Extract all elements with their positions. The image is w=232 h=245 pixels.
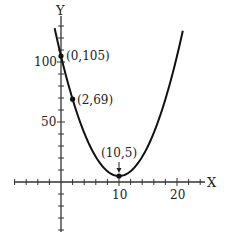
y-tick-label-50: 50 (41, 115, 56, 129)
point-label-0-105: (0,105) (66, 49, 110, 63)
x-tick-label-20: 20 (170, 188, 185, 202)
vertex-arrow-icon (117, 162, 122, 173)
point-0-105 (58, 53, 63, 58)
point-2-69 (70, 97, 75, 102)
point-10-5 (116, 173, 121, 178)
x-tick-label-10: 10 (112, 188, 127, 202)
point-label-10-5: (10,5) (101, 146, 137, 160)
y-axis-label: Y (55, 3, 65, 18)
x-axis-label: X (207, 175, 217, 190)
parabola-chart: X Y 10 20 50 100 (0,105) (2,69) (10,5) (0, 0, 232, 245)
point-label-2-69: (2,69) (77, 93, 113, 107)
y-tick-label-100: 100 (34, 55, 57, 69)
